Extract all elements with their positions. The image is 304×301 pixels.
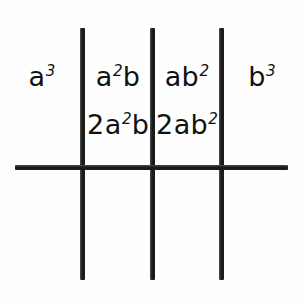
cell-row2-col2-base2: b <box>132 109 149 140</box>
cell-row2-col3-base1: a <box>174 109 191 140</box>
cell-row2-col2-base1: a <box>105 109 122 140</box>
cell-row2-col2: 2a2b <box>86 104 150 144</box>
cell-row1-col1-base1: a <box>28 61 45 92</box>
cell-row2-col3-exp2: 2 <box>208 110 218 128</box>
cell-row1-col4: b3 <box>224 56 300 96</box>
cell-row1-col1-exp1: 3 <box>46 62 56 80</box>
vertical-rule-1 <box>80 28 85 280</box>
cell-row1-col2-base2: b <box>123 61 140 92</box>
cell-row1-col3-base2: b <box>182 61 199 92</box>
cell-row1-col4-base1: b <box>248 61 265 92</box>
expansion-grid-figure: a3 a2b ab2 b3 2a2b 2ab2 <box>0 0 304 301</box>
horizontal-rule-1 <box>15 165 288 170</box>
cell-row2-col3-base2: b <box>190 109 207 140</box>
cell-row1-col2-exp1: 2 <box>113 62 123 80</box>
cell-row1-col3-base1: a <box>165 61 182 92</box>
cell-row2-col2-coefficient: 2 <box>87 109 105 140</box>
cell-row2-col2-exp1: 2 <box>122 110 132 128</box>
cell-row2-col3-coefficient: 2 <box>156 109 174 140</box>
cell-row1-col2: a2b <box>86 56 150 96</box>
cell-row1-col2-base1: a <box>96 61 113 92</box>
cell-row1-col3-exp2: 2 <box>199 62 209 80</box>
cell-row1-col4-exp1: 3 <box>266 62 276 80</box>
cell-row1-col1: a3 <box>4 56 80 96</box>
cell-row2-col3: 2ab2 <box>155 104 219 144</box>
cell-row1-col3: ab2 <box>155 56 219 96</box>
